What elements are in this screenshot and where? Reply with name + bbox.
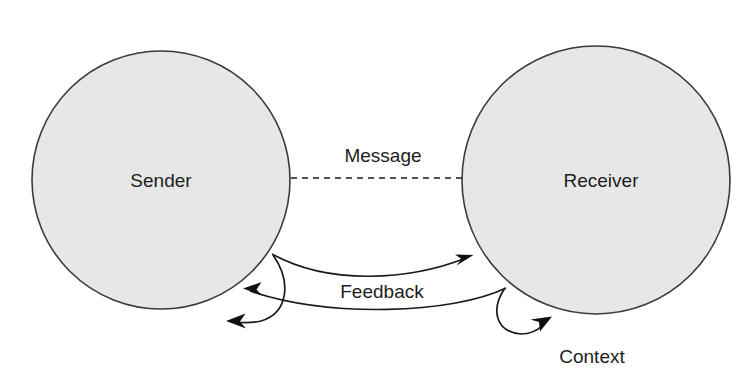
feedback-forward-arc: [272, 254, 466, 276]
node-sender[interactable]: Sender: [32, 51, 290, 309]
receiver-self-loop-arrowhead: [531, 317, 553, 332]
communication-model-diagram: Sender Receiver Message Feedback: [0, 0, 752, 384]
edge-feedback-forward[interactable]: [272, 254, 474, 276]
edge-message[interactable]: Message: [291, 145, 462, 178]
feedback-label: Feedback: [340, 281, 424, 302]
edge-feedback-return[interactable]: Feedback: [243, 281, 506, 309]
sender-self-loop-arrowhead: [226, 314, 246, 329]
sender-label: Sender: [130, 170, 192, 191]
feedback-forward-arrowhead: [455, 255, 474, 266]
diagram-canvas: Sender Receiver Message Feedback: [0, 0, 752, 384]
context-label: Context: [559, 346, 625, 367]
feedback-return-arrowhead: [243, 282, 262, 296]
node-receiver[interactable]: Receiver: [462, 46, 730, 314]
receiver-label: Receiver: [564, 170, 640, 191]
message-label: Message: [344, 145, 421, 166]
